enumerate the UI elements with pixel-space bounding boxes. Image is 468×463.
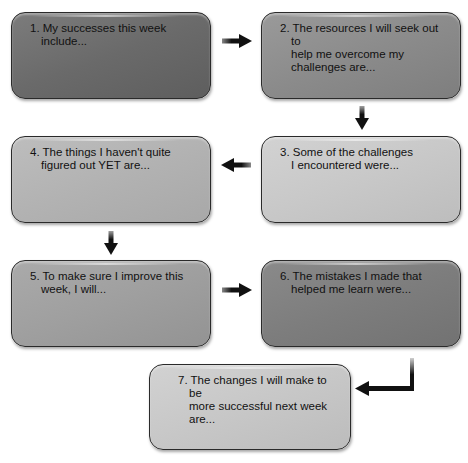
step-text-1: 1. My successes this week include...	[30, 22, 198, 48]
step-text-6: 6. The mistakes I made that helped me le…	[280, 270, 448, 296]
step-box-1: 1. My successes this week include...	[11, 12, 211, 99]
arrow-down-icon	[104, 231, 118, 255]
step-text-7: 7. The changes I will make to be more su…	[178, 374, 338, 426]
step-box-6: 6. The mistakes I made that helped me le…	[261, 260, 461, 347]
step-box-2: 2. The resources I will seek out to help…	[261, 12, 461, 99]
arrow-down-icon	[355, 106, 369, 130]
step-box-7: 7. The changes I will make to be more su…	[149, 364, 351, 450]
step-box-3: 3. Some of the challenges I encountered …	[261, 136, 461, 223]
step-text-2: 2. The resources I will seek out to help…	[280, 22, 448, 74]
arrow-left-icon	[221, 158, 251, 172]
step-box-4: 4. The things I haven't quite figured ou…	[11, 136, 211, 223]
arrow-right-icon	[222, 283, 252, 297]
step-box-5: 5. To make sure I improve this week, I w…	[11, 260, 211, 347]
step-text-4: 4. The things I haven't quite figured ou…	[30, 146, 198, 172]
step-text-5: 5. To make sure I improve this week, I w…	[30, 270, 198, 296]
arrow-elbow-left-icon	[355, 358, 417, 396]
arrow-right-icon	[222, 34, 252, 48]
step-text-3: 3. Some of the challenges I encountered …	[280, 146, 448, 172]
